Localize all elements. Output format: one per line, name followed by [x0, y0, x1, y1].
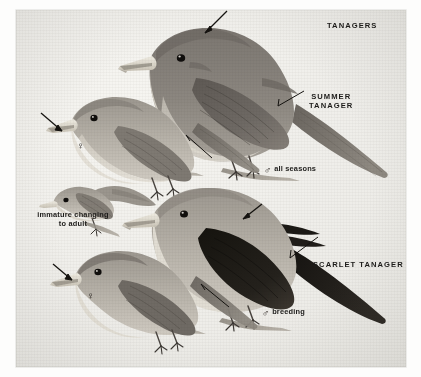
male-symbol-icon: ♂	[264, 165, 271, 175]
tanagers-artwork	[0, 0, 421, 377]
caption-immature-line2: to adult	[24, 220, 122, 229]
illustration-plate: TANAGERS SUMMER TANAGER SCARLET TANAGER …	[0, 0, 421, 377]
caption-scarlet-male-text: breeding	[272, 308, 305, 317]
caption-summer-male: ♂ all seasons	[264, 165, 316, 175]
female-symbol-icon-summer: ♀	[77, 141, 85, 151]
male-symbol-icon-2: ♂	[262, 308, 269, 318]
plate-title: TANAGERS	[327, 22, 377, 31]
label-summer-tanager: SUMMER TANAGER	[309, 93, 353, 111]
female-symbol-icon-scarlet: ♀	[87, 291, 95, 301]
caption-scarlet-male: ♂ breeding	[262, 308, 305, 318]
caption-summer-male-text: all seasons	[274, 165, 316, 174]
label-summer-tanager-line2: TANAGER	[309, 102, 353, 111]
label-scarlet-tanager: SCARLET TANAGER	[313, 261, 404, 270]
caption-immature: immature changing to adult	[24, 211, 122, 228]
arrow-scarlet-female-bill	[53, 264, 72, 280]
